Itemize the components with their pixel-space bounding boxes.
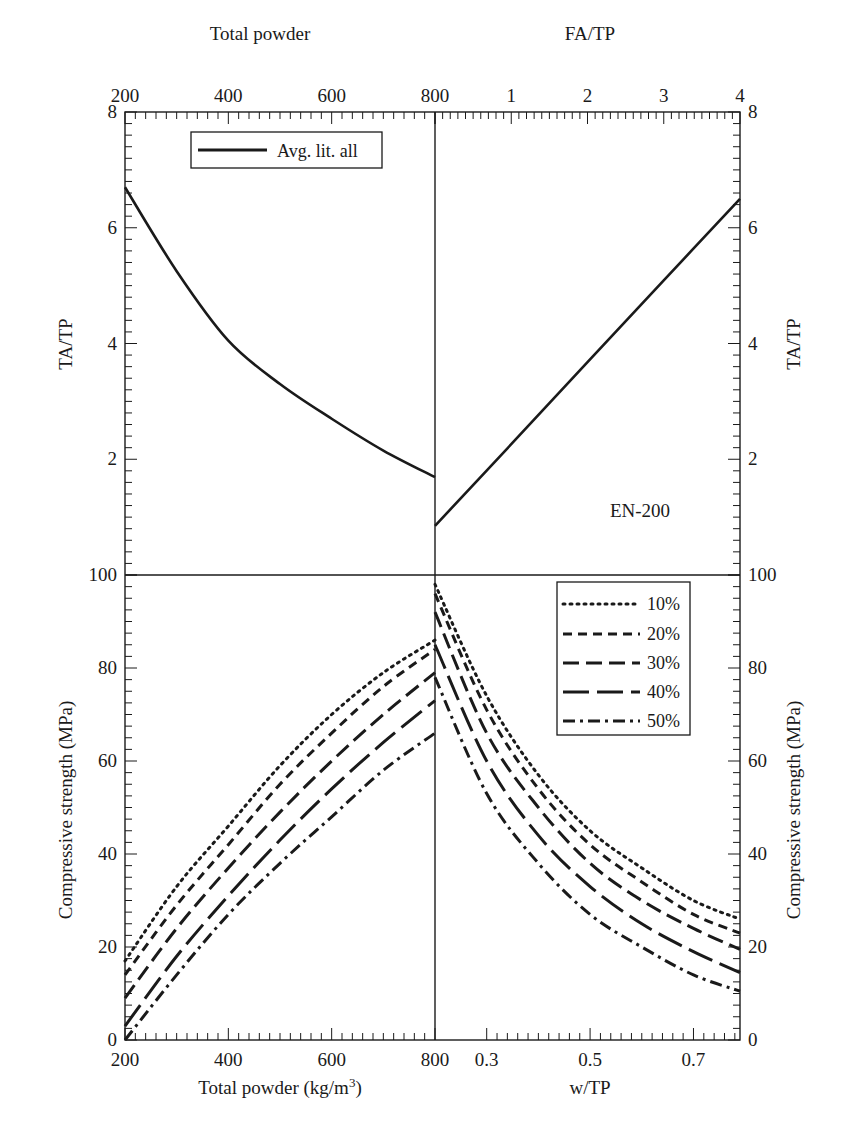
left-y-tick-label: 20 — [98, 936, 117, 957]
right-y-tick-label: 6 — [748, 217, 758, 238]
top-x-tick-label: 3 — [659, 85, 669, 106]
left-bottom-ylabel: Compressive strength (MPa) — [55, 701, 77, 919]
right-y-tick-label: 60 — [748, 750, 767, 771]
right-y-tick-label: 80 — [748, 657, 767, 678]
bottom-x-tick-label: 0.3 — [475, 1049, 499, 1070]
top-legend-label: Avg. lit. all — [277, 141, 358, 161]
chart-figure: 2004006008001234224466880020204040606080… — [0, 0, 856, 1139]
left-y-tick-label: 80 — [98, 657, 117, 678]
bottom-x-tick-label: 200 — [111, 1049, 140, 1070]
en-200-annotation: EN-200 — [610, 500, 670, 521]
series-avg-lit-all-right — [435, 199, 740, 526]
left-y-tick-label: 2 — [108, 448, 118, 469]
plot-frame — [125, 112, 740, 1040]
top-x-tick-label: 2 — [583, 85, 593, 106]
left-y-tick-label: 8 — [108, 101, 118, 122]
top-left-axis-title: Total powder — [210, 23, 311, 44]
right-y-tick-label: 100 — [748, 564, 777, 585]
series-30pct-left — [125, 673, 435, 999]
bottom-right-xlabel: w/TP — [569, 1077, 610, 1098]
top-x-tick-label: 400 — [214, 85, 243, 106]
bottom-left-xlabel: Total powder (kg/m3) — [198, 1075, 361, 1099]
left-y-tick-label: 0 — [108, 1029, 118, 1050]
legend-label-10: 10% — [647, 594, 680, 614]
right-bottom-ylabel: Compressive strength (MPa) — [783, 701, 805, 919]
left-y-tick-label: 60 — [98, 750, 117, 771]
left-y-tick-label: 40 — [98, 843, 117, 864]
bottom-x-tick-label: 800 — [421, 1049, 450, 1070]
series-50pct-left — [125, 733, 435, 1040]
top-x-tick-label: 4 — [735, 85, 745, 106]
bottom-legend: 10% 20% 30% 40% 50% — [557, 582, 690, 735]
series-avg-lit-all-left — [125, 187, 435, 477]
right-y-tick-label: 4 — [748, 333, 758, 354]
right-top-ylabel: TA/TP — [783, 318, 804, 369]
bottom-x-tick-label: 0.5 — [578, 1049, 602, 1070]
right-y-tick-label: 8 — [748, 101, 758, 122]
right-y-tick-label: 2 — [748, 448, 758, 469]
right-y-tick-label: 20 — [748, 936, 767, 957]
bottom-x-tick-label: 600 — [317, 1049, 346, 1070]
top-x-tick-label: 1 — [507, 85, 517, 106]
top-right-axis-title: FA/TP — [565, 23, 615, 44]
top-x-tick-label: 800 — [421, 85, 450, 106]
top-x-tick-label: 600 — [317, 85, 346, 106]
bottom-x-tick-label: 0.7 — [682, 1049, 706, 1070]
left-y-tick-label: 100 — [89, 564, 118, 585]
legend-label-20: 20% — [647, 624, 680, 644]
top-legend: Avg. lit. all — [191, 132, 382, 168]
bottom-x-tick-label: 400 — [214, 1049, 243, 1070]
right-y-tick-label: 0 — [748, 1029, 758, 1050]
axis-ticks: 2004006008001234224466880020204040606080… — [89, 85, 777, 1070]
legend-label-30: 30% — [647, 653, 680, 673]
right-y-tick-label: 40 — [748, 843, 767, 864]
legend-label-50: 50% — [647, 711, 680, 731]
left-y-tick-label: 6 — [108, 217, 118, 238]
legend-label-40: 40% — [647, 682, 680, 702]
left-y-tick-label: 4 — [108, 333, 118, 354]
left-top-ylabel: TA/TP — [55, 318, 76, 369]
